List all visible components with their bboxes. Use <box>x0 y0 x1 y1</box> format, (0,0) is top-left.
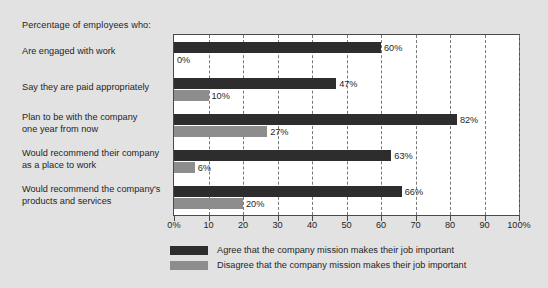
gridline-80 <box>450 35 451 215</box>
bar-disagree-2 <box>174 126 267 137</box>
category-label-3: Would recommend their companyas a place … <box>22 148 172 171</box>
x-tick-label-0: 0% <box>167 220 180 231</box>
bar-agree-2 <box>174 114 457 125</box>
bar-value-label: 27% <box>270 127 288 137</box>
legend-item-1: Disagree that the company mission makes … <box>170 258 548 273</box>
bar-agree-4 <box>174 186 402 197</box>
category-label-line: one year from now <box>22 124 172 136</box>
x-tick-label-80: 80 <box>445 220 455 231</box>
bar-disagree-1 <box>174 90 209 101</box>
category-label-line: as a place to work <box>22 160 172 172</box>
bar-chart: Percentage of employees who: Are engaged… <box>0 0 548 288</box>
bar-agree-3 <box>174 150 391 161</box>
chart-title: Percentage of employees who: <box>22 20 151 30</box>
gridline-100 <box>519 35 520 215</box>
x-tick-label-60: 60 <box>376 220 386 231</box>
bar-value-label: 47% <box>339 79 357 89</box>
bar-value-label: 0% <box>177 55 190 65</box>
x-tick-label-40: 40 <box>307 220 317 231</box>
legend-item-0: Agree that the company mission makes the… <box>170 243 548 258</box>
category-label-line: Are engaged with work <box>22 46 172 58</box>
category-label-4: Would recommend the company'sproducts an… <box>22 184 172 207</box>
legend-swatch-agree <box>170 246 208 255</box>
category-label-line: products and services <box>22 196 172 208</box>
x-tick-label-30: 30 <box>272 220 282 231</box>
bar-value-label: 66% <box>405 187 423 197</box>
bar-agree-1 <box>174 78 336 89</box>
category-label-2: Plan to be with the companyone year from… <box>22 112 172 135</box>
bar-value-label: 60% <box>384 43 402 53</box>
chart-legend: Agree that the company mission makes the… <box>170 243 548 273</box>
category-label-line: Plan to be with the company <box>22 112 172 124</box>
bar-value-label: 82% <box>460 115 478 125</box>
plot-area: 60%0%47%10%82%27%63%6%66%20% <box>173 34 520 216</box>
legend-label: Agree that the company mission makes the… <box>217 245 454 256</box>
category-label-column: Are engaged with workSay they are paid a… <box>22 34 172 216</box>
plot-inner: 60%0%47%10%82%27%63%6%66%20% <box>174 35 519 215</box>
bar-value-label: 6% <box>198 163 211 173</box>
bar-disagree-3 <box>174 162 195 173</box>
x-tick-label-90: 90 <box>479 220 489 231</box>
legend-label: Disagree that the company mission makes … <box>217 260 466 271</box>
category-label-line: Would recommend the company's <box>22 184 172 196</box>
bar-agree-0 <box>174 42 381 53</box>
x-tick-label-100: 100% <box>507 220 531 231</box>
bar-value-label: 10% <box>212 91 230 101</box>
legend-swatch-disagree <box>170 261 208 270</box>
category-label-1: Say they are paid appropriately <box>22 82 172 94</box>
x-tick-label-50: 50 <box>341 220 351 231</box>
x-tick-label-20: 20 <box>238 220 248 231</box>
category-label-line: Would recommend their company <box>22 148 172 160</box>
bar-value-label: 20% <box>246 199 264 209</box>
category-label-line: Say they are paid appropriately <box>22 82 172 94</box>
x-axis-tick-labels: 0%102030405060708090100% <box>173 220 520 234</box>
category-label-0: Are engaged with work <box>22 46 172 58</box>
x-tick-label-10: 10 <box>203 220 213 231</box>
x-tick-label-70: 70 <box>410 220 420 231</box>
bar-disagree-4 <box>174 198 243 209</box>
bar-value-label: 63% <box>394 151 412 161</box>
gridline-90 <box>485 35 486 215</box>
